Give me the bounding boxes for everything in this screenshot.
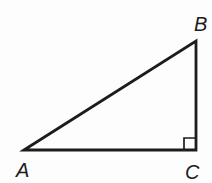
right-angle-marker [184,138,196,150]
vertex-label-a: A [15,159,29,181]
triangle-figure: A B C [0,0,212,183]
vertex-label-b: B [194,13,207,35]
triangle-outline [24,41,196,150]
right-triangle-diagram: A B C [0,0,212,183]
vertex-label-c: C [185,161,200,183]
